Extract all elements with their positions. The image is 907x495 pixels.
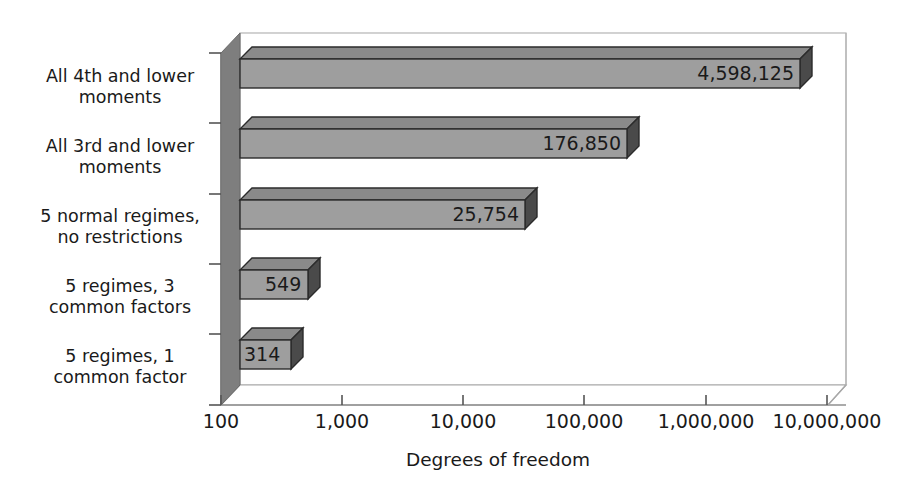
bar-top-face bbox=[240, 258, 320, 270]
category-label: no restrictions bbox=[57, 227, 182, 247]
left-wall bbox=[221, 33, 240, 405]
x-tick-label: 100 bbox=[203, 410, 239, 432]
category-label: common factor bbox=[53, 367, 187, 387]
bar-all-3rd-and-lower-moments: 176,850 bbox=[240, 117, 639, 158]
bar-top-face bbox=[240, 47, 812, 59]
x-tick-label: 1,000 bbox=[315, 410, 369, 432]
bar-5-regimes-1-common-factor: 314 bbox=[240, 328, 303, 369]
x-tick-label: 10,000 bbox=[430, 410, 496, 432]
category-label: All 4th and lower bbox=[46, 66, 195, 86]
bar-5-normal-regimes-no-restrictions: 25,754 bbox=[240, 188, 537, 229]
category-label: 5 normal regimes, bbox=[40, 206, 200, 226]
bar-value-label: 4,598,125 bbox=[697, 62, 794, 84]
x-axis-title: Degrees of freedom bbox=[406, 449, 590, 470]
category-label: moments bbox=[79, 157, 162, 177]
x-tick-label: 100,000 bbox=[545, 410, 624, 432]
category-label: 5 regimes, 1 bbox=[65, 346, 174, 366]
bar-value-label: 549 bbox=[265, 273, 301, 295]
bar-value-label: 314 bbox=[244, 343, 280, 365]
bar-chart-3d: 314 549 25,754 176,850 4,598 bbox=[0, 0, 907, 495]
category-label: All 3rd and lower bbox=[46, 136, 195, 156]
bar-value-label: 176,850 bbox=[542, 132, 621, 154]
bar-5-regimes-3-common-factors: 549 bbox=[240, 258, 320, 299]
bar-top-face bbox=[240, 188, 537, 200]
bar-all-4th-and-lower-moments: 4,598,125 bbox=[240, 47, 812, 88]
category-label: 5 regimes, 3 bbox=[65, 276, 174, 296]
chart-container: 314 549 25,754 176,850 4,598 bbox=[0, 0, 907, 495]
floor-plane bbox=[221, 385, 846, 405]
x-tick-label: 1,000,000 bbox=[658, 410, 755, 432]
category-label: common factors bbox=[49, 297, 191, 317]
category-label: moments bbox=[79, 87, 162, 107]
bar-top-face bbox=[240, 117, 639, 129]
bar-value-label: 25,754 bbox=[453, 203, 519, 225]
x-tick-label: 10,000,000 bbox=[773, 410, 882, 432]
